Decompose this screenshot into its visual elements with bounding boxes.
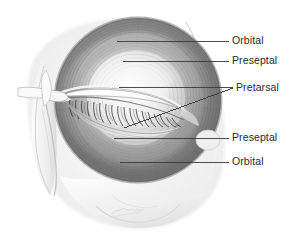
label-preseptal-inferior: Preseptal [232, 132, 277, 143]
label-orbital-superior: Orbital [232, 35, 264, 46]
label-pretarsal: Pretarsal [236, 82, 279, 93]
label-orbital-inferior: Orbital [232, 156, 264, 167]
leader-line-pretarsal-upper [119, 87, 233, 88]
label-preseptal-superior: Preseptal [232, 55, 277, 66]
leader-line-pretarsal-lower [124, 88, 233, 128]
anatomy-figure: Orbital Preseptal Pretarsal Preseptal Or… [0, 0, 296, 241]
